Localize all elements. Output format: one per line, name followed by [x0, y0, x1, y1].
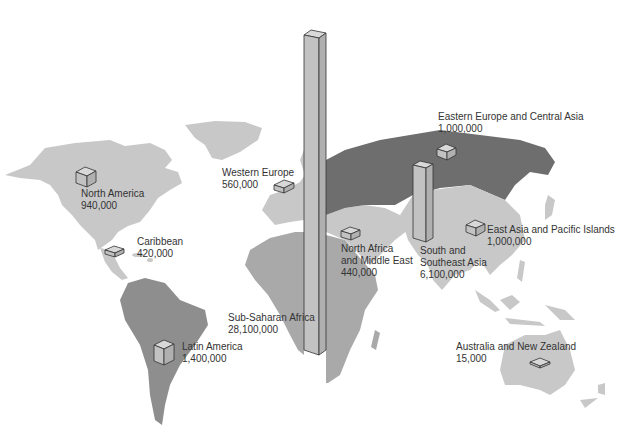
- label-sub-saharan-africa: Sub-Saharan Africa 28,100,000: [228, 312, 315, 336]
- region-name-line1: North Africa: [341, 243, 413, 255]
- region-value: 6,100,000: [420, 269, 487, 281]
- region-value: 1,400,000: [182, 353, 243, 365]
- label-eastern-europe-central-asia: Eastern Europe and Central Asia 1,000,00…: [438, 111, 584, 135]
- label-north-africa-middle-east: North Africa and Middle East 440,000: [341, 243, 413, 279]
- region-name-line1: South and: [420, 245, 487, 257]
- label-western-europe: Western Europe 560,000: [222, 167, 294, 191]
- label-australia-new-zealand: Australia and New Zealand 15,000: [456, 341, 576, 365]
- region-name: Latin America: [182, 341, 243, 353]
- region-name: East Asia and Pacific Islands: [487, 224, 615, 236]
- label-north-america: North America 940,000: [81, 188, 144, 212]
- box-latin-america: [154, 340, 174, 365]
- region-name: Australia and New Zealand: [456, 341, 576, 353]
- label-latin-america: Latin America 1,400,000: [182, 341, 243, 365]
- label-south-southeast-asia: South and Southeast Asia 6,100,000: [420, 245, 487, 281]
- bar-south-southeast-asia: [413, 161, 433, 242]
- greenland-shape: [185, 121, 262, 160]
- world-map-chart: North America 940,000 Caribbean 420,000 …: [0, 0, 617, 447]
- region-value: 1,000,000: [487, 236, 615, 248]
- region-name: North America: [81, 188, 144, 200]
- region-name: Caribbean: [137, 236, 183, 248]
- region-value: 420,000: [137, 248, 183, 260]
- region-name: Sub-Saharan Africa: [228, 312, 315, 324]
- region-name: Western Europe: [222, 167, 294, 179]
- region-value: 28,100,000: [228, 324, 315, 336]
- region-value: 440,000: [341, 267, 413, 279]
- bar-sub-saharan-africa: [304, 30, 326, 355]
- region-name-line2: Southeast Asia: [420, 257, 487, 269]
- region-value: 940,000: [81, 200, 144, 212]
- region-name: Eastern Europe and Central Asia: [438, 111, 584, 123]
- region-value: 1,000,000: [438, 123, 584, 135]
- region-value: 15,000: [456, 353, 576, 365]
- box-north-america: [76, 167, 96, 187]
- label-caribbean: Caribbean 420,000: [137, 236, 183, 260]
- africa-shape: [245, 232, 304, 355]
- region-value: 560,000: [222, 179, 294, 191]
- region-name-line2: and Middle East: [341, 255, 413, 267]
- label-east-asia-pacific: East Asia and Pacific Islands 1,000,000: [487, 224, 615, 248]
